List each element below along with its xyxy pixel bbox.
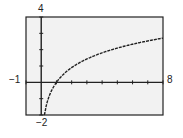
- plot-frame: [26, 17, 163, 115]
- x-max-label: 8: [167, 74, 173, 85]
- chart: [0, 0, 183, 138]
- y-max-label: 4: [38, 3, 44, 14]
- y-min-label: −2: [36, 117, 47, 128]
- x-min-label: −1: [9, 74, 20, 85]
